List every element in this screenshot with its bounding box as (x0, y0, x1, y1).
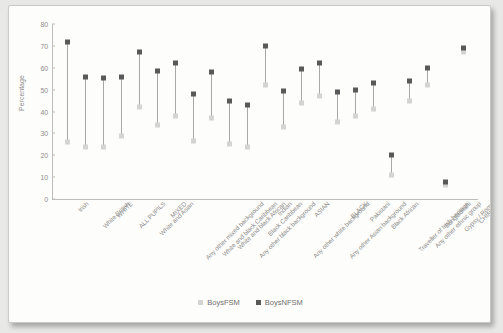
data-point-boysnfsm (281, 88, 286, 93)
data-point-boysnfsm (65, 39, 70, 44)
data-point-boysnfsm (299, 66, 304, 71)
y-axis-tick-label: 60 (8, 64, 53, 71)
data-point-boysfsm (407, 98, 412, 103)
y-axis-tick-mark (52, 199, 55, 200)
data-point-boysnfsm (227, 98, 232, 103)
y-axis-tick-label: 30 (8, 130, 53, 137)
data-point-connector (265, 46, 266, 85)
y-axis-tick-mark (52, 89, 55, 90)
y-axis-tick-mark (52, 67, 55, 68)
data-point-boysfsm (317, 94, 322, 99)
x-axis-tick-label: ALL PUPILS (137, 200, 166, 229)
data-point-connector (193, 94, 194, 141)
data-point-connector (67, 42, 68, 143)
data-point-boysfsm (353, 113, 358, 118)
data-point-boysnfsm (335, 89, 340, 94)
y-axis-tick-mark (52, 111, 55, 112)
data-point-connector (139, 52, 140, 107)
data-point-connector (301, 69, 302, 103)
data-point-boysnfsm (137, 50, 142, 55)
legend-item[interactable]: BoysFSM (198, 298, 240, 307)
data-point-boysnfsm (155, 69, 160, 74)
y-axis-tick-mark (52, 24, 55, 25)
chart-legend: BoysFSMBoysNFSM (9, 298, 491, 307)
data-point-boysnfsm (245, 102, 250, 107)
legend-label: BoysNFSM (265, 298, 303, 307)
data-point-boysfsm (245, 144, 250, 149)
data-point-connector (121, 77, 122, 136)
data-point-connector (229, 101, 230, 145)
data-point-connector (85, 77, 86, 147)
data-point-connector (247, 105, 248, 147)
data-point-connector (283, 91, 284, 127)
y-axis-tick-label: 10 (8, 174, 53, 181)
data-point-boysnfsm (173, 61, 178, 66)
legend-swatch-icon (198, 300, 203, 305)
chart-figure-frame: Percentage 01020304050607080 IrishWhite … (8, 5, 491, 323)
y-axis-tick-label: 70 (8, 42, 53, 49)
data-point-boysfsm (227, 142, 232, 147)
data-point-boysnfsm (443, 179, 448, 184)
legend-swatch-icon (256, 300, 261, 305)
x-axis-tick-label: Irish (76, 200, 89, 213)
y-axis-tick-label: 80 (8, 21, 53, 28)
data-point-connector (211, 72, 212, 118)
data-point-connector (157, 71, 158, 125)
data-point-boysfsm (119, 133, 124, 138)
data-point-boysfsm (173, 113, 178, 118)
data-point-boysnfsm (101, 75, 106, 80)
data-point-boysnfsm (263, 43, 268, 48)
data-point-connector (373, 83, 374, 109)
data-point-boysfsm (83, 144, 88, 149)
data-point-boysfsm (263, 83, 268, 88)
data-point-boysfsm (101, 144, 106, 149)
data-point-boysfsm (281, 124, 286, 129)
data-point-connector (319, 63, 320, 96)
legend-item[interactable]: BoysNFSM (256, 298, 303, 307)
data-point-boysnfsm (371, 81, 376, 86)
data-point-boysfsm (299, 100, 304, 105)
data-point-boysnfsm (389, 153, 394, 158)
data-point-boysnfsm (353, 87, 358, 92)
data-point-boysfsm (209, 116, 214, 121)
data-point-boysnfsm (317, 61, 322, 66)
data-point-boysfsm (371, 107, 376, 112)
y-axis-tick-label: 20 (8, 152, 53, 159)
y-axis-tick-mark (52, 133, 55, 134)
legend-label: BoysFSM (207, 298, 240, 307)
data-point-boysfsm (191, 139, 196, 144)
data-point-boysfsm (425, 83, 430, 88)
data-point-boysfsm (389, 172, 394, 177)
data-point-connector (355, 90, 356, 116)
y-axis-tick-label: 40 (8, 108, 53, 115)
data-point-boysnfsm (209, 70, 214, 75)
y-axis-tick-mark (52, 155, 55, 156)
y-axis-tick-label: 50 (8, 86, 53, 93)
data-point-connector (103, 78, 104, 147)
data-point-connector (337, 92, 338, 123)
plot-area: 01020304050607080 (53, 24, 477, 199)
y-axis-tick-mark (52, 45, 55, 46)
data-point-boysnfsm (425, 65, 430, 70)
data-point-boysnfsm (407, 78, 412, 83)
data-point-boysnfsm (191, 92, 196, 97)
data-point-boysfsm (461, 50, 466, 55)
data-point-boysfsm (335, 120, 340, 125)
data-point-boysfsm (137, 105, 142, 110)
data-point-boysfsm (155, 122, 160, 127)
data-point-boysnfsm (119, 74, 124, 79)
x-axis-labels: IrishWhite BritishWHITEALL PUPILSWhite a… (9, 200, 491, 295)
data-point-boysnfsm (83, 74, 88, 79)
data-point-connector (175, 63, 176, 116)
data-point-boysnfsm (461, 46, 466, 51)
data-point-boysfsm (65, 140, 70, 145)
y-axis-tick-mark (52, 177, 55, 178)
